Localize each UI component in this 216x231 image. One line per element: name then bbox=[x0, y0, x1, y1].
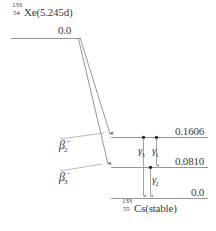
energy-label-daughter-ground: 0.0 bbox=[191, 187, 204, 198]
decay-scheme-figure: 133 54 Xe(5.245d) 0.0 0.1606 0.0810 0.0 … bbox=[0, 0, 216, 231]
beta-2-superscript: − bbox=[66, 137, 71, 146]
beta-2-label: β2− bbox=[59, 139, 73, 151]
parent-mass-number: 133 bbox=[12, 2, 22, 9]
gamma-3-subscript: 3 bbox=[141, 151, 145, 159]
parent-nuclide-numbers: 133 54 bbox=[12, 5, 24, 16]
energy-label-excited-1: 0.0810 bbox=[175, 156, 204, 167]
gamma-1-subscript: 1 bbox=[155, 151, 159, 159]
beta-3-label: β3− bbox=[59, 171, 73, 183]
parent-atomic-number: 54 bbox=[13, 10, 20, 17]
energy-label-excited-2: 0.1606 bbox=[175, 126, 204, 137]
beta-3-superscript: − bbox=[66, 169, 71, 178]
beta-3-subscript: 3 bbox=[64, 178, 68, 186]
parent-nuclide-label: 133 54 Xe(5.245d) bbox=[12, 5, 72, 18]
daughter-nuclide-numbers: 133 55 bbox=[122, 201, 134, 212]
gamma-2-label: γ2 bbox=[152, 174, 160, 185]
beta-2-subscript: 2 bbox=[64, 146, 68, 154]
energy-label-parent-ground: 0.0 bbox=[58, 25, 71, 36]
parent-nuclide-text: Xe(5.245d) bbox=[24, 6, 72, 18]
daughter-atomic-number: 55 bbox=[123, 206, 130, 213]
gamma-2-subscript: 2 bbox=[155, 180, 159, 188]
daughter-mass-number: 133 bbox=[122, 198, 132, 205]
daughter-nuclide-text: Cs(stable) bbox=[134, 202, 177, 214]
transition-arrow-beta-3 bbox=[79, 39, 109, 164]
gamma-3-label: γ3 bbox=[138, 145, 146, 156]
daughter-nuclide-label: 133 55 Cs(stable) bbox=[122, 201, 177, 214]
gamma-1-label: γ1 bbox=[152, 145, 160, 156]
transition-arrow-beta-2 bbox=[81, 39, 111, 134]
decay-scheme-canvas bbox=[0, 0, 216, 231]
